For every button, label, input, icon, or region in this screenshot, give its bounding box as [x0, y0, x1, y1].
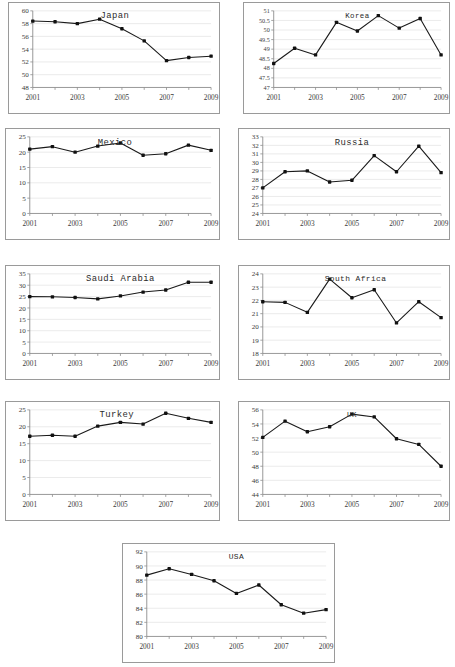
- data-point-marker: [119, 421, 122, 424]
- y-tick-label: 48: [252, 463, 260, 471]
- y-tick-label: 44: [252, 491, 260, 499]
- x-tick-label: 2003: [300, 359, 315, 368]
- south-africa-series-line: [263, 279, 441, 323]
- panel-mexico: 051015202520012003200520072009Mexico: [5, 128, 220, 240]
- x-tick-label: 2005: [229, 642, 244, 651]
- data-point-marker: [187, 56, 190, 59]
- data-point-marker: [212, 579, 215, 582]
- chart-title: Saudi Arabia: [86, 274, 155, 284]
- data-point-marker: [280, 603, 283, 606]
- panel-usa: 8082848688909220012003200520072009USA: [122, 543, 335, 663]
- y-tick-label: 56: [252, 406, 260, 414]
- y-tick-label: 49: [264, 46, 270, 52]
- x-tick-label: 2005: [345, 220, 360, 228]
- data-point-marker: [209, 149, 212, 152]
- data-point-marker: [417, 145, 420, 148]
- korea-plot: 4747.54848.54949.55050.55120012003200520…: [244, 3, 449, 113]
- x-tick-label: 2005: [113, 359, 128, 368]
- y-tick-label: 10: [19, 179, 27, 187]
- data-point-marker: [164, 288, 167, 291]
- data-point-marker: [257, 583, 260, 586]
- y-tick-label: 50.5: [259, 18, 270, 24]
- data-point-marker: [439, 53, 442, 56]
- data-point-marker: [395, 170, 398, 173]
- x-tick-label: 2009: [434, 359, 449, 368]
- y-tick-label: 54: [252, 421, 260, 429]
- y-tick-label: 50: [22, 71, 30, 79]
- y-tick-label: 25: [19, 133, 27, 141]
- chart-title: Turkey: [100, 411, 135, 421]
- y-tick-label: 20: [19, 149, 27, 157]
- data-point-marker: [187, 281, 190, 284]
- data-point-marker: [395, 321, 398, 324]
- x-tick-label: 2009: [204, 220, 219, 228]
- y-tick-label: 5: [22, 339, 26, 347]
- data-point-marker: [190, 573, 193, 576]
- data-point-marker: [417, 443, 420, 446]
- usa-plot: 8082848688909220012003200520072009USA: [123, 544, 334, 662]
- y-tick-label: 52: [22, 58, 30, 66]
- japan-series-line: [33, 19, 211, 60]
- russia-plot: 2425262728293031323320012003200520072009…: [239, 129, 449, 239]
- y-tick-label: 20: [252, 323, 260, 331]
- x-tick-label: 2003: [68, 500, 83, 509]
- x-tick-label: 2009: [434, 94, 449, 102]
- y-tick-label: 49.5: [259, 37, 270, 43]
- x-tick-label: 2007: [392, 94, 407, 102]
- data-point-marker: [164, 152, 167, 155]
- uk-plot: 4446485052545620012003200520072009UK: [239, 402, 449, 520]
- y-tick-label: 56: [22, 33, 30, 41]
- y-tick-label: 15: [19, 316, 27, 324]
- x-tick-label: 2003: [308, 94, 323, 102]
- y-tick-label: 24: [252, 270, 260, 278]
- x-tick-label: 2009: [204, 94, 219, 102]
- data-point-marker: [356, 29, 359, 32]
- data-point-marker: [306, 430, 309, 433]
- data-point-marker: [31, 19, 34, 22]
- y-tick-label: 35: [19, 270, 27, 278]
- x-tick-label: 2003: [68, 220, 83, 228]
- x-tick-label: 2007: [274, 642, 289, 651]
- south-africa-plot: 1819202122232420012003200520072009South …: [239, 266, 449, 379]
- data-point-marker: [51, 145, 54, 148]
- y-tick-label: 25: [252, 202, 260, 210]
- y-tick-label: 58: [22, 20, 30, 28]
- x-tick-label: 2001: [255, 220, 270, 228]
- y-tick-label: 92: [136, 548, 144, 556]
- y-tick-label: 15: [19, 440, 27, 448]
- x-tick-label: 2001: [22, 220, 37, 228]
- chart-title: USA: [229, 553, 244, 562]
- data-point-marker: [28, 435, 31, 438]
- data-point-marker: [306, 311, 309, 314]
- y-tick-label: 50: [252, 449, 260, 457]
- data-point-marker: [373, 288, 376, 291]
- y-tick-label: 24: [252, 210, 260, 218]
- y-tick-label: 84: [136, 605, 144, 613]
- data-point-marker: [235, 592, 238, 595]
- data-point-marker: [209, 281, 212, 284]
- x-tick-label: 2009: [434, 220, 449, 228]
- data-point-marker: [335, 21, 338, 24]
- data-point-marker: [51, 295, 54, 298]
- y-tick-label: 48: [22, 84, 30, 92]
- x-tick-label: 2005: [115, 94, 130, 102]
- y-tick-label: 5: [22, 474, 26, 482]
- x-tick-label: 2007: [158, 220, 173, 228]
- y-tick-label: 50: [264, 27, 270, 33]
- chart-title: Mexico: [98, 138, 132, 148]
- y-tick-label: 48.5: [259, 56, 270, 62]
- data-point-marker: [141, 154, 144, 157]
- y-tick-label: 10: [19, 457, 27, 465]
- y-tick-label: 30: [19, 282, 27, 290]
- chart-title: UK: [347, 411, 357, 419]
- data-point-marker: [439, 316, 442, 319]
- x-tick-label: 2003: [70, 94, 85, 102]
- data-point-marker: [96, 424, 99, 427]
- x-tick-label: 2001: [22, 359, 37, 368]
- data-point-marker: [167, 567, 170, 570]
- data-point-marker: [306, 169, 309, 172]
- x-tick-label: 2007: [389, 359, 404, 368]
- y-tick-label: 60: [22, 7, 30, 15]
- x-tick-label: 2003: [300, 500, 315, 509]
- mexico-plot: 051015202520012003200520072009Mexico: [6, 129, 219, 239]
